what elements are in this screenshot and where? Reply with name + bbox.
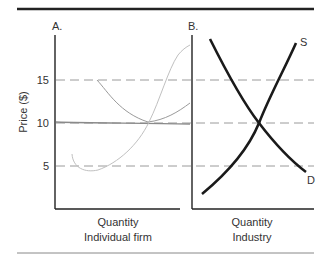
chart-figure: A. B. 15 10 5 Price ($) S D Quantity Ind… <box>0 0 329 258</box>
y-tick-15: 15 <box>37 74 49 86</box>
panel-a-label: A. <box>52 20 62 32</box>
panel-b-curves <box>202 39 306 194</box>
demand-curve <box>210 39 306 172</box>
demand-label: D <box>307 174 315 186</box>
panel-b-axes <box>192 35 314 209</box>
panel-a-subtitle: Individual firm <box>84 231 152 243</box>
supply-curve <box>202 43 296 194</box>
panel-a-curves <box>56 45 190 171</box>
supply-label: S <box>300 36 307 48</box>
y-tick-5: 5 <box>43 160 49 172</box>
mc-curve <box>72 45 190 171</box>
y-tick-10: 10 <box>37 117 49 129</box>
panel-b-x-label: Quantity <box>232 216 273 228</box>
panel-a-x-label: Quantity <box>98 216 139 228</box>
y-axis-label: Price ($) <box>17 91 29 133</box>
panel-b-subtitle: Industry <box>232 231 272 243</box>
panel-b-label: B. <box>188 20 198 32</box>
atc-curve <box>97 80 190 122</box>
